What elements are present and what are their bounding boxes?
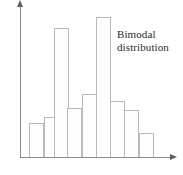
histogram-bar xyxy=(96,17,111,157)
chart-annotation: Bimodal distribution xyxy=(117,28,181,54)
histogram-bar xyxy=(139,133,154,157)
histogram-bar xyxy=(29,123,44,157)
histogram-bars xyxy=(0,0,183,175)
histogram-bar xyxy=(124,110,139,157)
histogram-bar xyxy=(110,101,125,157)
histogram-bar xyxy=(82,94,97,157)
histogram-bar xyxy=(67,108,82,157)
annotation-line-1: Bimodal xyxy=(117,28,181,41)
bimodal-distribution-figure: Bimodal distribution xyxy=(0,0,183,175)
annotation-line-2: distribution xyxy=(117,41,181,54)
